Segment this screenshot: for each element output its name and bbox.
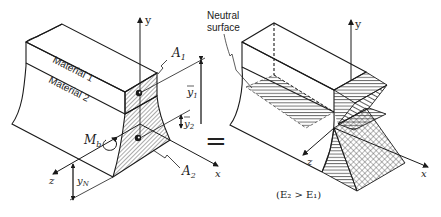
left-z-label: z — [48, 175, 55, 186]
right-y-label: y — [354, 18, 362, 31]
A2-leader — [153, 150, 180, 168]
neutral-surface-label-line2: surface — [207, 22, 240, 33]
moment-label: Mb — [83, 133, 101, 149]
right-z-label: z — [306, 156, 313, 167]
A1-leader — [158, 60, 167, 74]
composite-beam-diagram: y x z Material 1 Material 2 A1 A2 y1 y2 … — [0, 0, 441, 217]
A1-label: A1 — [171, 46, 186, 62]
right-x-label: x — [421, 168, 427, 179]
left-beam — [12, 24, 170, 177]
modulus-condition: (E₂ > E₁) — [276, 189, 321, 200]
left-x-label: x — [215, 168, 221, 179]
A2-label: A2 — [181, 164, 196, 180]
left-top-face — [26, 24, 157, 92]
yN-label: yN — [76, 175, 90, 188]
ybar2-label: y2 — [183, 118, 195, 131]
ybar1-label: y1 — [186, 86, 198, 100]
left-y-label: y — [144, 14, 152, 27]
centroid-A1 — [136, 90, 142, 96]
neutral-surface-label-line1: Neutral — [207, 10, 239, 21]
cross-section-material-2 — [113, 96, 170, 177]
equals-sign: = — [205, 126, 227, 156]
